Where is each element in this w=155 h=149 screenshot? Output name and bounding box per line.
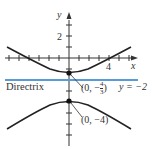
vertex-upper	[66, 70, 71, 75]
focus-label: (0, −43)	[81, 81, 107, 96]
graph	[0, 0, 155, 149]
x-tick-label: 4	[106, 62, 111, 72]
vertex-lower	[66, 98, 71, 103]
y-axis-label: y	[57, 10, 61, 20]
y-tick-label: 2	[57, 32, 62, 42]
directrix-equation: y = −2	[119, 82, 147, 92]
directrix-label: Directrix	[6, 82, 44, 93]
y-axis-arrow-icon	[67, 12, 72, 19]
x-axis-label: x	[131, 61, 135, 71]
vertex-label: (0, −4)	[81, 115, 108, 125]
